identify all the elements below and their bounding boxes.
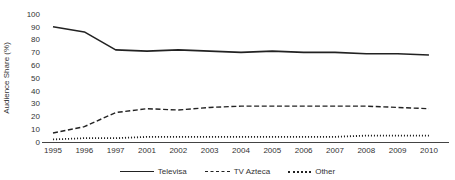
legend-item-tv-azteca: TV Azteca [205,167,270,176]
legend-label-tv-azteca: TV Azteca [234,167,270,176]
x-tick-label: 1995 [44,146,62,155]
y-tick-label: 50 [31,74,40,83]
legend-item-televisa: Televisa [120,167,187,176]
x-tick-label: 2008 [357,146,375,155]
y-tick-label: 80 [31,35,40,44]
legend-item-other: Other [288,167,335,176]
chart-legend: Televisa TV Azteca Other [0,167,455,176]
legend-label-televisa: Televisa [158,167,187,176]
chart-plot-area: 0102030405060708090100Audience Share (%)… [0,0,455,158]
y-tick-label: 10 [31,125,40,134]
x-tick-label: 2010 [420,146,438,155]
other-line [53,136,429,140]
legend-label-other: Other [315,167,335,176]
audience-share-chart: 0102030405060708090100Audience Share (%)… [0,0,455,180]
x-tick-label: 2001 [138,146,156,155]
televisa-line [53,27,429,55]
y-tick-label: 0 [36,138,41,147]
x-tick-label: 2005 [263,146,281,155]
other-dotted-line-swatch [288,171,311,173]
y-tick-label: 90 [31,23,40,32]
y-tick-label: 20 [31,112,40,121]
y-tick-label: 100 [27,10,41,19]
x-tick-label: 2009 [389,146,407,155]
x-tick-label: 2003 [201,146,219,155]
x-tick-label: 1996 [75,146,93,155]
x-tick-label: 2007 [326,146,344,155]
televisa-solid-line-swatch [120,171,154,172]
y-tick-label: 40 [31,87,40,96]
x-tick-label: 2006 [295,146,313,155]
x-tick-label: 1997 [107,146,125,155]
y-axis-title: Audience Share (%) [2,42,11,114]
y-tick-label: 30 [31,99,40,108]
y-tick-label: 60 [31,61,40,70]
y-tick-label: 70 [31,48,40,57]
tv-azteca-line [53,106,429,133]
x-tick-label: 2002 [169,146,187,155]
x-tick-label: 2004 [232,146,250,155]
tv-azteca-dashed-line-swatch [205,171,230,172]
